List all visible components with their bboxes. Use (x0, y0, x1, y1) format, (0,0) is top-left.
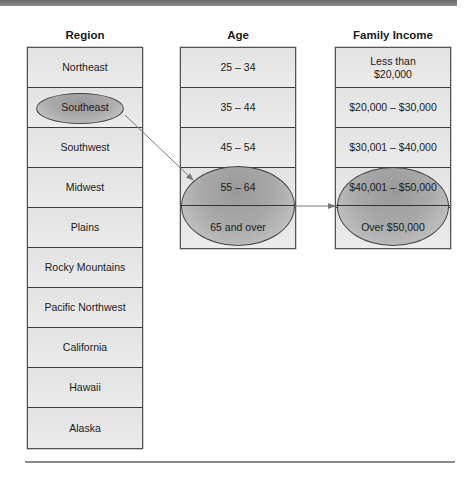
region-cell-southwest: Southwest (28, 128, 142, 168)
income-label-over-50000: Over $50,000 (336, 221, 450, 233)
cell-label: Plains (71, 221, 100, 234)
age-label-55-64: 55 – 64 (181, 181, 295, 193)
income-cell-20000-30000: $20,000 – $30,000 (336, 88, 450, 128)
region-cell-northeast: Northeast (28, 48, 142, 88)
cell-label: 45 – 54 (220, 141, 255, 154)
cell-label: Northeast (62, 61, 108, 74)
region-header: Region (27, 29, 143, 41)
cell-label: $20,000 – $30,000 (349, 101, 437, 114)
age-highlight-ellipse (181, 166, 295, 246)
region-column: Northeast Southeast Southwest Midwest Pl… (27, 47, 143, 449)
cell-label: Rocky Mountains (45, 261, 126, 274)
age-row-divider (181, 205, 295, 206)
income-row-divider (336, 205, 450, 206)
region-cell-midwest: Midwest (28, 168, 142, 208)
cell-label: $30,001 – $40,000 (349, 141, 437, 154)
income-cell-less-20000: Less than $20,000 (336, 48, 450, 88)
age-header: Age (180, 29, 296, 41)
income-label-40001-50000: $40,001 – $50,000 (336, 181, 450, 193)
age-cell-35-44: 35 – 44 (181, 88, 295, 128)
region-cell-rocky-mountains: Rocky Mountains (28, 248, 142, 288)
income-cell-30001-40000: $30,001 – $40,000 (336, 128, 450, 168)
region-cell-california: California (28, 328, 142, 368)
income-highlight-ellipse (337, 167, 449, 246)
age-cell-25-34: 25 – 34 (181, 48, 295, 88)
cell-label: Alaska (69, 422, 101, 435)
cell-label: Southwest (60, 141, 109, 154)
region-cell-plains: Plains (28, 208, 142, 248)
cell-label: Hawaii (69, 381, 101, 394)
cell-label: California (63, 341, 107, 354)
top-bar (0, 0, 457, 6)
region-cell-hawaii: Hawaii (28, 368, 142, 408)
cell-label: Less than $20,000 (370, 55, 416, 81)
cell-label: 35 – 44 (220, 101, 255, 114)
cell-label: Southeast (61, 101, 108, 114)
age-cell-45-54: 45 – 54 (181, 128, 295, 168)
region-cell-southeast: Southeast (28, 88, 142, 128)
cell-label: Pacific Northwest (44, 301, 125, 314)
region-cell-alaska: Alaska (28, 408, 142, 448)
income-header: Family Income (335, 29, 451, 41)
region-cell-pacific-northwest: Pacific Northwest (28, 288, 142, 328)
cell-label: Midwest (66, 181, 105, 194)
cell-label: 25 – 34 (220, 61, 255, 74)
age-label-65-over: 65 and over (181, 221, 295, 233)
bottom-divider (25, 461, 455, 463)
